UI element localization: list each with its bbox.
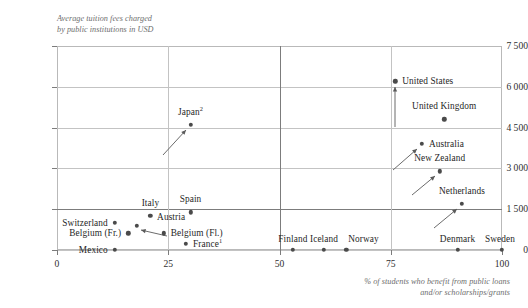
y-tick-mark — [52, 128, 57, 129]
data-point[interactable] — [344, 248, 348, 252]
x-tick-mark — [280, 250, 281, 255]
data-point-label: France1 — [193, 239, 222, 249]
data-point[interactable] — [322, 248, 326, 252]
data-point-label: Sweden — [485, 234, 515, 244]
x-tick-label: 75 — [386, 258, 396, 269]
data-point[interactable] — [291, 248, 295, 252]
gridline-vertical — [280, 46, 281, 250]
y-tick-label: 1 500 — [476, 203, 528, 214]
y-tick-mark — [52, 209, 57, 210]
data-point-label: Belgium (Fr.) — [69, 228, 121, 238]
x-tick-label: 100 — [495, 258, 509, 269]
data-point-label: Japan2 — [178, 107, 203, 117]
data-point-label: Netherlands — [439, 186, 485, 196]
data-point-label: Switzerland — [62, 218, 108, 228]
y-tick-label: 4 500 — [476, 122, 528, 133]
y-tick-mark — [52, 87, 57, 88]
data-point-label: Italy — [142, 198, 160, 208]
x-tick-mark — [168, 250, 169, 255]
y-tick-label: 3 000 — [476, 162, 528, 173]
data-point-label: Mexico — [79, 245, 108, 255]
data-point-label: Finland — [278, 234, 307, 244]
x-tick-mark — [57, 250, 58, 255]
data-point-label: Denmark — [440, 234, 475, 244]
y-tick-label: 6 000 — [476, 81, 528, 92]
data-point-label: New Zealand — [414, 153, 465, 163]
gridline-vertical — [391, 46, 392, 250]
y-tick-mark — [52, 46, 57, 47]
data-point-label: Spain — [180, 194, 202, 204]
x-tick-mark — [391, 250, 392, 255]
x-axis-title: % of students who benefit from public lo… — [320, 277, 510, 298]
data-point-label: Austria — [157, 212, 185, 222]
data-point-label: United Kingdom — [412, 101, 476, 111]
data-point[interactable] — [455, 248, 459, 252]
data-point-label: Iceland — [310, 234, 338, 244]
x-tick-label: 50 — [275, 258, 285, 269]
scatter-chart: Average tuition fees charged by public i… — [0, 0, 528, 308]
x-tick-label: 0 — [55, 258, 60, 269]
y-axis-title: Average tuition fees charged by public i… — [57, 14, 154, 35]
data-point[interactable] — [113, 248, 117, 252]
data-point-label: Australia — [429, 139, 464, 149]
data-point-label: Norway — [348, 234, 379, 244]
y-tick-mark — [52, 168, 57, 169]
x-tick-label: 25 — [163, 258, 173, 269]
y-tick-label: 7 500 — [476, 40, 528, 51]
data-point-label: Belgium (Fl.) — [171, 228, 223, 238]
data-point-label: United States — [402, 76, 453, 86]
